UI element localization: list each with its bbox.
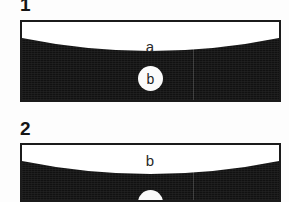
panel-2-callout-label: c	[147, 196, 154, 203]
panel-number-2: 2	[20, 119, 31, 138]
panel-number-1: 1	[20, 0, 31, 14]
figure-two-panel-cross-sections: 1 a b 2 b c	[0, 0, 289, 202]
panel-2-vertical-seam	[193, 171, 194, 200]
panel-1: a b	[20, 20, 281, 102]
panel-1-vertical-seam	[193, 48, 194, 100]
panel-1-band-label: a	[140, 39, 160, 54]
panel-2: b c	[20, 143, 281, 202]
panel-1-callout-label: b	[147, 72, 155, 86]
panel-2-band-label: b	[140, 153, 160, 168]
panel-1-callout-circle: b	[138, 66, 163, 91]
